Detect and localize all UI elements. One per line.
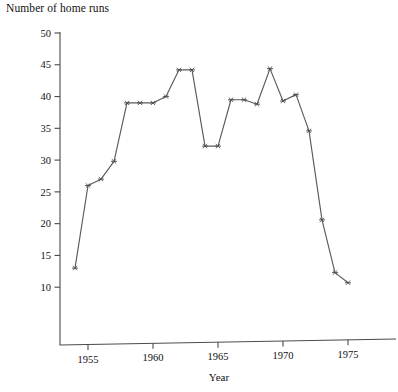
x-axis-title-wrap: Year (0, 371, 398, 383)
chart-container: Number of home runs 101520253035404550 1… (0, 0, 398, 392)
svg-text:35: 35 (41, 123, 52, 134)
data-series-line (75, 69, 348, 283)
svg-text:50: 50 (41, 28, 52, 39)
svg-text:45: 45 (41, 59, 52, 70)
svg-text:10: 10 (41, 282, 52, 293)
y-axis-ticks: 101520253035404550 (41, 28, 61, 293)
svg-text:1960: 1960 (143, 352, 164, 363)
svg-text:1970: 1970 (273, 350, 294, 361)
svg-text:40: 40 (41, 91, 52, 102)
x-axis-title: Year (209, 371, 229, 383)
data-point-markers (72, 66, 351, 284)
svg-text:1975: 1975 (338, 349, 359, 360)
svg-text:15: 15 (41, 250, 52, 261)
chart-plot-area: 101520253035404550 19551960196519701975 (0, 0, 398, 392)
svg-text:30: 30 (41, 155, 52, 166)
svg-text:1965: 1965 (208, 351, 229, 362)
chart-axes (60, 32, 396, 345)
svg-text:25: 25 (41, 187, 52, 198)
svg-text:1955: 1955 (78, 354, 99, 365)
svg-text:20: 20 (41, 218, 52, 229)
